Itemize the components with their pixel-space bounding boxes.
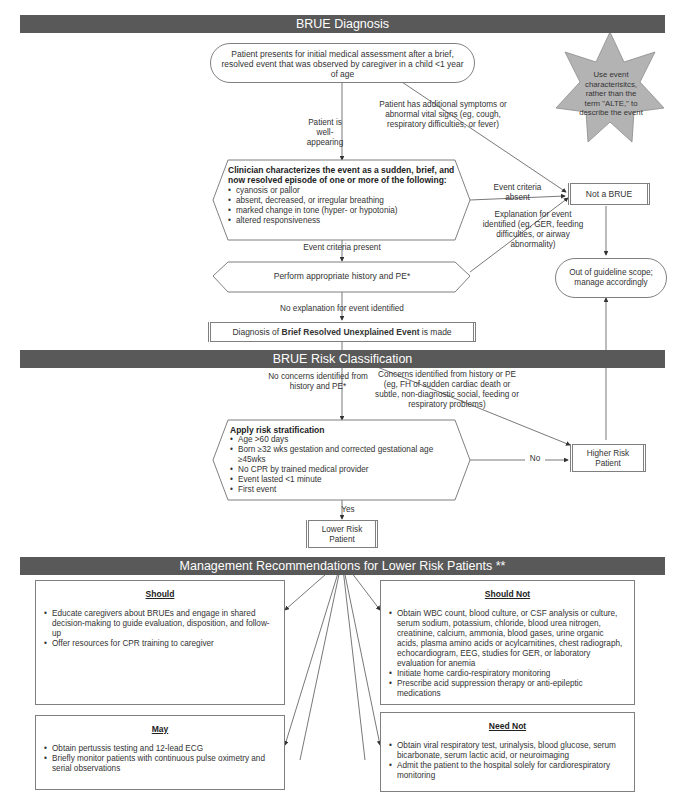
- need-not-list: Obtain viral respiratory test, urinalysi…: [389, 741, 626, 781]
- label-no: No: [525, 454, 545, 464]
- higher-risk-node: Higher Risk Patient: [570, 444, 646, 472]
- label-explanation-identified: Explanation for event identified (eg, GE…: [478, 210, 588, 250]
- should-item: Offer resources for CPR training to care…: [44, 639, 276, 649]
- label-concerns: Concerns identified from history or PE (…: [372, 370, 522, 410]
- lower-risk-text: Lower Risk Patient: [309, 525, 375, 545]
- out-of-scope-node: Out of guideline scope; manage according…: [555, 258, 667, 298]
- should-not-item: Prescribe acid suppression therapy or an…: [389, 679, 626, 699]
- label-no-concerns: No concerns identified from history and …: [268, 372, 368, 392]
- diagnosis-node: Diagnosis of Brief Resolved Unexplained …: [208, 322, 476, 342]
- should-list: Educate caregivers about BRUEs and engag…: [44, 609, 276, 649]
- should-not-item: Obtain WBC count, blood culture, or CSF …: [389, 609, 626, 669]
- banner-diagnosis: BRUE Diagnosis: [20, 15, 665, 33]
- risk-strat-list: Age >60 days Born ≥32 wks gestation and …: [230, 435, 455, 495]
- higher-risk-text: Higher Risk Patient: [573, 449, 643, 469]
- risk-item: Age >60 days: [230, 435, 455, 445]
- label-event-criteria-present: Event criteria present: [282, 243, 402, 253]
- risk-strat-node: Apply risk stratification Age >60 days B…: [230, 425, 455, 495]
- not-brue-node: Not a BRUE: [568, 183, 650, 205]
- diagnosis-prefix: Diagnosis of: [232, 327, 281, 337]
- characterize-node: Clinician characterizes the event as a s…: [228, 165, 456, 226]
- may-title: May: [44, 724, 276, 734]
- should-not-list: Obtain WBC count, blood culture, or CSF …: [389, 609, 626, 699]
- label-yes: Yes: [338, 505, 358, 515]
- risk-item: Event lasted <1 minute: [230, 475, 455, 485]
- banner-management: Management Recommendations for Lower Ris…: [20, 557, 665, 575]
- characterize-item: cyanosis or pallor: [228, 186, 456, 196]
- risk-item: No CPR by trained medical provider: [230, 465, 455, 475]
- label-event-criteria-absent: Event criteria absent: [490, 183, 545, 203]
- out-of-scope-text: Out of guideline scope; manage according…: [560, 268, 662, 288]
- diagnosis-bold: Brief Resolved Unexplained Event: [282, 327, 420, 337]
- not-brue-text: Not a BRUE: [571, 189, 647, 199]
- may-list: Obtain pertussis testing and 12-lead ECG…: [44, 744, 276, 774]
- may-item: Briefly monitor patients with continuous…: [44, 754, 276, 774]
- characterize-title: Clinician characterizes the event as a s…: [228, 165, 456, 185]
- should-not-box: Should Not Obtain WBC count, blood cultu…: [380, 580, 635, 705]
- characterize-list: cyanosis or pallor absent, decreased, or…: [228, 186, 456, 226]
- start-node: Patient presents for initial medical ass…: [210, 43, 475, 83]
- should-title: Should: [44, 589, 276, 599]
- need-not-box: Need Not Obtain viral respiratory test, …: [380, 712, 635, 792]
- should-not-item: Initiate home cardio-respiratory monitor…: [389, 669, 626, 679]
- need-not-title: Need Not: [389, 721, 626, 731]
- history-text: Perform appropriate history and PE*: [228, 271, 456, 281]
- start-node-text: Patient presents for initial medical ass…: [221, 49, 464, 79]
- label-well-appearing: Patient is well-appearing: [300, 118, 350, 148]
- banner-risk-classification: BRUE Risk Classification: [20, 350, 665, 368]
- diagnosis-suffix: is made: [419, 327, 451, 337]
- need-not-item: Obtain viral respiratory test, urinalysi…: [389, 741, 626, 761]
- risk-item: Born ≥32 wks gestation and corrected ges…: [230, 445, 455, 465]
- need-not-item: Admit the patient to the hospital solely…: [389, 761, 626, 781]
- characterize-item: absent, decreased, or irregular breathin…: [228, 196, 456, 206]
- may-item: Obtain pertussis testing and 12-lead ECG: [44, 744, 276, 754]
- should-box: Should Educate caregivers about BRUEs an…: [35, 580, 285, 705]
- should-item: Educate caregivers about BRUEs and engag…: [44, 609, 276, 639]
- should-not-title: Should Not: [389, 589, 626, 599]
- may-box: May Obtain pertussis testing and 12-lead…: [35, 715, 285, 790]
- characterize-item: marked change in tone (hyper- or hypoton…: [228, 206, 456, 216]
- lower-risk-node: Lower Risk Patient: [306, 520, 378, 548]
- star-note: Use event characterisitcs, rather than t…: [578, 70, 644, 118]
- risk-strat-title: Apply risk stratification: [230, 425, 455, 435]
- diagnosis-text: Diagnosis of Brief Resolved Unexplained …: [211, 327, 473, 337]
- risk-item: First event: [230, 485, 455, 495]
- characterize-item: altered responsiveness: [228, 216, 456, 226]
- label-additional-symptoms: Patient has additional symptoms or abnor…: [378, 100, 508, 130]
- label-no-explanation: No explanation for event identified: [262, 304, 422, 314]
